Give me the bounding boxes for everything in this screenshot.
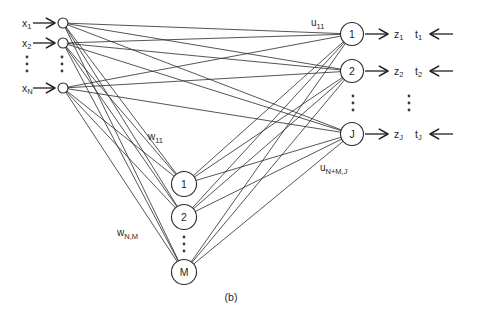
edge-line [63,23,352,134]
edge-line [184,71,352,217]
weight-label-wNM: wN,M [116,227,138,241]
connection-lines [63,23,352,272]
edge-line [184,134,352,184]
input-label: xN [22,82,33,97]
input-label: x1 [22,17,31,32]
t-target-label: t1 [415,28,422,43]
network-diagram: x1 x2 xN 1 2 M 1 2 J z1 z2 zJ t1 t2 tJ w… [0,0,477,325]
ellipsis-dot [408,95,411,98]
ellipsis-dot [352,109,355,112]
ellipsis-dot [26,56,29,59]
t-target-label: t2 [415,65,422,80]
ellipsis-dot [352,95,355,98]
ellipsis-dot [408,102,411,105]
hidden-node-label: M [180,266,189,278]
weight-label-uNMJ: uN+M,J [320,162,348,176]
input-node-circle [58,38,68,48]
edge-line [184,134,352,272]
edge-line [184,34,352,184]
input-node-circle [58,83,68,93]
edge-line [184,34,352,272]
z-output-label: z2 [394,65,403,80]
edge-line [63,23,184,184]
edge-line [63,88,184,184]
figure-caption: (b) [225,291,238,303]
ellipsis-dot [183,250,186,253]
edge-line [184,134,352,217]
hidden-node-label: 1 [181,178,187,190]
hidden-node-label: 2 [181,211,187,223]
ellipsis-dot [408,109,411,112]
weight-label-u11: u11 [311,17,324,31]
ellipsis-dot [26,70,29,73]
weight-label-w11: w11 [147,131,163,145]
ellipsis-dot [183,243,186,246]
z-output-label: z1 [394,28,403,43]
ellipsis-dot [26,63,29,66]
z-output-label: zJ [394,128,403,143]
edge-line [184,34,352,217]
edge-line [63,23,352,34]
ellipsis-dot [352,102,355,105]
ellipsis-dot [61,63,64,66]
ellipsis-dot [61,56,64,59]
output-node-label: J [349,128,354,140]
ellipsis-dot [183,236,186,239]
neural-network-figure: x1 x2 xN 1 2 M 1 2 J z1 z2 zJ t1 t2 tJ w… [0,0,477,325]
t-target-label: tJ [415,128,422,143]
edge-line [63,88,184,217]
input-node-circle [58,18,68,28]
ellipsis-dot [61,70,64,73]
input-label: x2 [22,37,31,52]
edge-line [63,23,184,217]
edge-line [63,88,184,272]
output-node-label: 1 [349,28,355,40]
edge-line [63,34,352,43]
edge-line [63,43,184,184]
output-node-label: 2 [349,65,355,77]
